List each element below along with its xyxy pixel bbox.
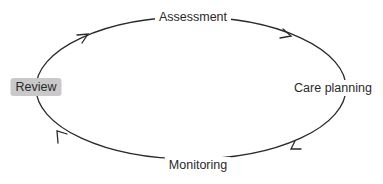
node-review: Review	[11, 78, 62, 96]
node-care-planning: Care planning	[290, 80, 376, 96]
node-monitoring: Monitoring	[165, 157, 231, 173]
arrowhead-monitoring-to-review	[57, 131, 67, 143]
care-cycle-diagram: Assessment Care planning Monitoring Revi…	[0, 0, 383, 184]
node-assessment: Assessment	[155, 9, 231, 25]
